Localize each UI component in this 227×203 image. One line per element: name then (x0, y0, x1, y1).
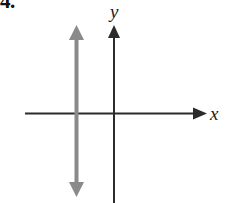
graphed-vertical-line (69, 25, 84, 197)
coordinate-plane-graphic (0, 0, 227, 203)
y-axis-arrowhead-icon (108, 25, 120, 38)
graphed-line-down-arrowhead-icon (69, 182, 84, 197)
figure-container: 4. y x (0, 0, 227, 203)
x-axis-arrowhead-icon (193, 108, 207, 120)
graphed-line-up-arrowhead-icon (69, 25, 84, 40)
x-axis (25, 108, 207, 120)
y-axis-label: y (110, 2, 118, 21)
x-axis-label: x (210, 104, 218, 123)
